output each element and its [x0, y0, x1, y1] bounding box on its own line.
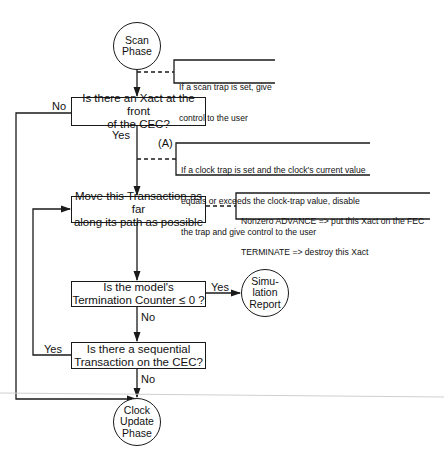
scan-phase-node: Scan Phase	[113, 22, 161, 70]
arrow-yes-loop-to-move	[33, 209, 71, 355]
label-termination-yes: Yes	[211, 281, 229, 293]
label-sequential-yes: Yes	[44, 343, 62, 355]
termination-line1: Is the model's	[103, 281, 174, 294]
label-marker-a: (A)	[158, 137, 173, 149]
label-xact-front-no: No	[52, 100, 66, 112]
page-rule	[0, 393, 444, 397]
label-xact-front-yes: Yes	[112, 129, 130, 141]
sequential-line2: Transaction on the CEC?	[74, 356, 203, 369]
sequential-line1: Is there a sequential	[87, 343, 191, 356]
advance-line1: Nonzero ADVANCE => put this Xact on the …	[241, 216, 424, 226]
sequential-decision: Is there a sequential Transaction on the…	[71, 342, 206, 369]
scan-trap-line1: If a scan trap is set, give	[179, 82, 272, 92]
clock-trap-line1: If a clock trap is set and the clock's c…	[181, 165, 366, 175]
scan-trap-line2: control to the user	[179, 113, 272, 123]
termination-line2: Termination Counter ≤ 0 ?	[72, 294, 204, 307]
label-sequential-no: No	[141, 373, 155, 385]
termination-decision: Is the model's Termination Counter ≤ 0 ?	[71, 281, 206, 307]
advance-line2: TERMINATE => destroy this Xact	[241, 247, 424, 257]
clock-update-line3: Phase	[122, 428, 152, 440]
annotation-advance-terminate: Nonzero ADVANCE => put this Xact on the …	[237, 196, 424, 267]
label-termination-no: No	[141, 311, 155, 323]
annotation-scan-trap: If a scan trap is set, give control to t…	[175, 62, 272, 133]
clock-update-phase-node: Clock Update Phase	[113, 398, 161, 446]
sim-report-line3: Report	[249, 299, 281, 311]
scan-phase-line2: Phase	[122, 46, 152, 58]
simulation-report-node: Simu- lation Report	[241, 269, 289, 317]
